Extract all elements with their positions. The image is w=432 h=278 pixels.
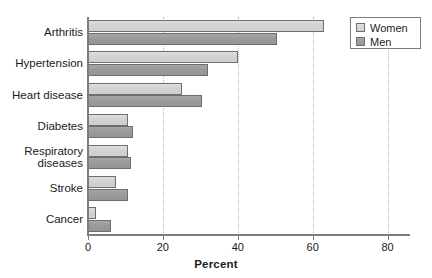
legend-item-men[interactable]: Men [356, 35, 420, 48]
category-label: Diabetes [0, 120, 83, 133]
x-tick-label: 40 [232, 241, 244, 253]
category-label: Heart disease [0, 89, 83, 102]
x-tick-label: 60 [307, 241, 319, 253]
bar-women-diabetes [88, 114, 128, 126]
category-label: Hypertension [0, 57, 83, 70]
bar-men-respiratory-diseases [88, 157, 131, 169]
gridline-40 [238, 17, 239, 235]
legend: Women Men [350, 17, 421, 49]
bar-women-hypertension [88, 51, 238, 63]
legend-label-men: Men [370, 36, 391, 48]
legend-swatch-men-icon [356, 37, 365, 46]
category-labels: ArthritisHypertensionHeart diseaseDiabet… [0, 17, 83, 235]
gridline-80 [388, 17, 389, 235]
tick-mark-40 [238, 235, 239, 240]
bar-men-stroke [88, 189, 128, 201]
tick-mark-80 [388, 235, 389, 240]
bar-women-cancer [88, 207, 96, 219]
x-axis-title: Percent [0, 258, 432, 270]
plot-area [88, 17, 410, 235]
y-axis-line [87, 17, 89, 235]
bar-men-hypertension [88, 64, 208, 76]
bar-chart: 020406080 ArthritisHypertensionHeart dis… [0, 0, 432, 278]
legend-label-women: Women [370, 22, 408, 34]
category-label: Stroke [0, 182, 83, 195]
category-label: Cancer [0, 213, 83, 226]
x-tick-label: 20 [157, 241, 169, 253]
tick-mark-20 [163, 235, 164, 240]
x-tick-label: 80 [381, 241, 393, 253]
legend-swatch-women-icon [356, 23, 365, 32]
category-label: Arthritis [0, 26, 83, 39]
bar-women-arthritis [88, 20, 324, 32]
legend-item-women[interactable]: Women [356, 21, 420, 34]
bar-men-heart-disease [88, 95, 202, 107]
bar-women-heart-disease [88, 83, 182, 95]
bar-men-cancer [88, 220, 111, 232]
bar-women-respiratory-diseases [88, 145, 128, 157]
category-label: Respiratory diseases [0, 145, 83, 170]
bar-women-stroke [88, 176, 116, 188]
gridline-60 [313, 17, 314, 235]
tick-mark-60 [313, 235, 314, 240]
x-axis-line [87, 234, 410, 236]
gridline-20 [163, 17, 164, 235]
tick-mark-0 [88, 235, 89, 240]
x-tick-label: 0 [85, 241, 91, 253]
bar-men-arthritis [88, 33, 277, 45]
bar-men-diabetes [88, 126, 133, 138]
